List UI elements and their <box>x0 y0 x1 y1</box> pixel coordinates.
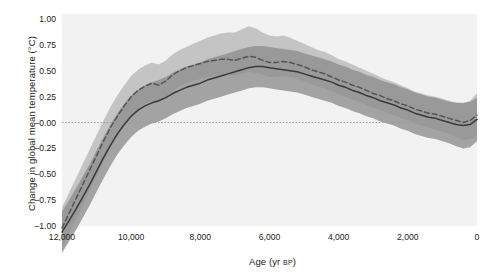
y-tick-label: –0.00 <box>34 118 56 128</box>
x-axis-label-close: ) <box>293 256 296 267</box>
x-tick-label: 4,000 <box>328 232 350 242</box>
x-axis-label-main: Age (yr <box>249 256 283 267</box>
x-tick-label: 2,000 <box>397 232 419 242</box>
x-axis-label: Age (yr BP) <box>249 256 296 267</box>
y-tick-label: –0.75 <box>34 195 56 205</box>
x-tick-label: 10,000 <box>118 232 144 242</box>
x-tick-label: 12,000 <box>49 232 75 242</box>
y-tick-label: 1.00 <box>39 14 56 24</box>
y-tick-label: –0.50 <box>34 169 56 179</box>
x-tick-label: 6,000 <box>259 232 281 242</box>
x-tick-label: 8,000 <box>190 232 212 242</box>
chart-figure: Change in global mean temperature (°C) 1… <box>0 0 494 276</box>
y-tick-label: 0.50 <box>39 66 56 76</box>
y-tick-label: –0.25 <box>34 143 56 153</box>
x-axis-label-bp: BP <box>283 259 293 266</box>
x-tick-label: 0 <box>475 232 480 242</box>
y-tick-label: 0.25 <box>39 92 56 102</box>
y-tick-label: 0.75 <box>39 40 56 50</box>
y-tick-label: –1.00 <box>34 221 56 231</box>
